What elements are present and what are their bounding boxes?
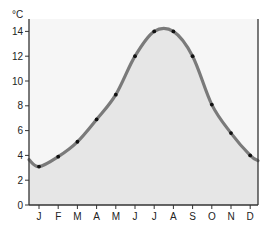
data-point-marker xyxy=(248,154,252,158)
data-point-marker xyxy=(172,30,176,34)
y-tick-label: 2 xyxy=(17,175,23,186)
data-point-marker xyxy=(76,140,80,144)
data-point-marker xyxy=(210,103,214,107)
y-axis-unit-label: °C xyxy=(12,9,23,20)
data-point-marker xyxy=(114,93,118,97)
x-tick-label: J xyxy=(133,211,138,222)
data-point-marker xyxy=(229,131,233,135)
data-point-marker xyxy=(191,54,195,58)
x-axis-ticks: JFMAMJJASOND xyxy=(37,205,254,222)
x-tick-label: J xyxy=(37,211,42,222)
data-point-marker xyxy=(56,155,60,159)
y-tick-label: 0 xyxy=(17,200,23,211)
y-tick-label: 10 xyxy=(12,76,24,87)
data-point-marker xyxy=(152,30,156,34)
x-tick-label: M xyxy=(112,211,120,222)
x-tick-label: S xyxy=(189,211,196,222)
data-point-marker xyxy=(95,118,99,122)
data-point-marker xyxy=(133,54,137,58)
y-tick-label: 14 xyxy=(12,26,24,37)
y-tick-label: 8 xyxy=(17,100,23,111)
x-tick-label: A xyxy=(93,211,100,222)
x-tick-label: N xyxy=(227,211,234,222)
x-tick-label: O xyxy=(208,211,216,222)
x-tick-label: F xyxy=(55,211,61,222)
data-point-marker xyxy=(37,165,41,169)
y-axis-ticks: 02468101214 xyxy=(12,26,29,211)
y-tick-label: 12 xyxy=(12,51,24,62)
temperature-chart: 02468101214 JFMAMJJASOND °C xyxy=(0,0,270,232)
y-tick-label: 6 xyxy=(17,125,23,136)
x-tick-label: J xyxy=(152,211,157,222)
x-tick-label: M xyxy=(73,211,81,222)
x-tick-label: A xyxy=(170,211,177,222)
y-tick-label: 4 xyxy=(17,150,23,161)
x-tick-label: D xyxy=(247,211,254,222)
